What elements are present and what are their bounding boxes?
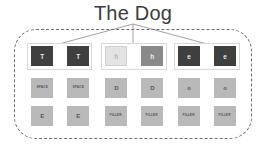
tile-label: D — [114, 85, 118, 91]
diagram-stage: The Dog T T SPACE SPACE E E h h D D FILL… — [0, 0, 266, 151]
tile-g1-r1-c2[interactable]: T — [67, 46, 89, 66]
tile-g3-r1-c1[interactable]: e — [178, 46, 200, 66]
tile-g3-r3-c2[interactable]: FILLER — [214, 106, 236, 126]
tile-g2-r3-c1[interactable]: FILLER — [105, 106, 127, 126]
tile-label: SPACE — [36, 86, 48, 89]
tile-label: FILLER — [183, 114, 195, 117]
tile-g1-r1-c1[interactable]: T — [31, 46, 53, 66]
tile-g2-r3-c2[interactable]: FILLER — [141, 106, 163, 126]
tile-label: FILLER — [146, 114, 158, 117]
tile-label: D — [150, 85, 154, 91]
tile-label: E — [76, 113, 80, 119]
page-title: The Dog — [0, 2, 266, 24]
tile-label: FILLER — [110, 114, 122, 117]
tile-g3-r2-c1[interactable]: o — [178, 78, 200, 98]
tile-label: o — [187, 85, 191, 91]
tile-label: e — [187, 53, 191, 59]
tile-label: SPACE — [72, 86, 84, 89]
tile-label: T — [40, 53, 44, 59]
tile-label: T — [76, 53, 80, 59]
tile-g1-r3-c2[interactable]: E — [67, 106, 89, 126]
tile-g3-r2-c2[interactable]: o — [214, 78, 236, 98]
tile-label: h — [114, 53, 118, 59]
tile-label: e — [223, 53, 227, 59]
tile-g2-r1-c1[interactable]: h — [105, 46, 127, 66]
tile-label: FILLER — [219, 114, 231, 117]
tile-g3-r1-c2[interactable]: e — [214, 46, 236, 66]
tile-g1-r2-c1[interactable]: SPACE — [31, 78, 53, 98]
tile-g2-r2-c2[interactable]: D — [141, 78, 163, 98]
tile-g1-r3-c1[interactable]: E — [31, 106, 53, 126]
tile-g2-r2-c1[interactable]: D — [105, 78, 127, 98]
tile-label: o — [223, 85, 227, 91]
tile-label: E — [40, 113, 44, 119]
tile-g2-r1-c2[interactable]: h — [141, 46, 163, 66]
tile-g3-r3-c1[interactable]: FILLER — [178, 106, 200, 126]
tile-label: h — [150, 53, 154, 59]
tile-g1-r2-c2[interactable]: SPACE — [67, 78, 89, 98]
